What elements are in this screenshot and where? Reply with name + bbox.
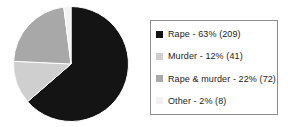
chart-legend: Rape - 63% (209) Murder - 12% (41) Rape … xyxy=(150,20,278,115)
legend-swatch-rape xyxy=(156,31,163,38)
pie-slice xyxy=(14,7,71,64)
pie-chart-plot-area xyxy=(11,6,131,122)
legend-item-other: Other - 2% (8) xyxy=(156,91,277,111)
legend-swatch-other xyxy=(156,97,163,104)
legend-label-rape-and-murder: Rape & murder - 22% (72) xyxy=(168,74,276,84)
legend-item-rape: Rape - 63% (209) xyxy=(156,24,277,44)
legend-item-murder: Murder - 12% (41) xyxy=(156,46,277,66)
legend-label-murder: Murder - 12% (41) xyxy=(168,51,243,61)
pie-chart-figure: Rape - 63% (209) Murder - 12% (41) Rape … xyxy=(0,0,288,127)
pie-slices xyxy=(14,6,129,121)
legend-item-rape-and-murder: Rape & murder - 22% (72) xyxy=(156,69,277,89)
legend-swatch-murder xyxy=(156,53,163,60)
pie-chart-svg xyxy=(11,6,131,122)
legend-swatch-rape-and-murder xyxy=(156,75,163,82)
legend-label-rape: Rape - 63% (209) xyxy=(168,29,241,39)
legend-label-other: Other - 2% (8) xyxy=(168,96,226,106)
